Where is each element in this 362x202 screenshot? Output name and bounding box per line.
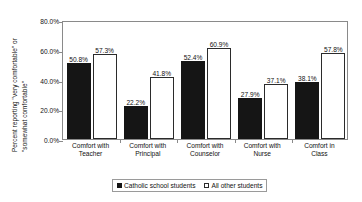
bar-group: 50.8%57.3% [63,22,120,139]
plot-area: 50.8%57.3%22.2%41.8%52.4%60.9%27.9%37.1%… [62,21,348,140]
y-axis-tick-labels: 0.0%20.0%40.0%60.0%80.0% [25,0,59,160]
legend-swatch-icon-filled [117,183,122,188]
bar-group: 27.9%37.1% [235,22,292,139]
bar-catholic-school-students: 27.9% [238,98,262,140]
bar-all-other-students: 57.3% [93,54,117,139]
category-label-line: Comfort with [234,142,291,150]
x-axis-category-label: Comfort withTeacher [62,142,119,159]
category-label-line: Class [291,150,348,158]
bar-group: 22.2%41.8% [120,22,177,139]
category-label-line: Comfort with [119,142,176,150]
legend-label: All other students [211,182,262,189]
bar-value-label: 57.3% [95,47,114,54]
bar-chart: Percent reporting "very comfortable" or … [0,0,362,202]
category-label-line: Principal [119,150,176,158]
x-axis-category-label: Comfort withCounselor [176,142,233,159]
bar-value-label: 60.9% [210,41,229,48]
bar-all-other-students: 37.1% [264,84,288,139]
y-axis-tick-label: 60.0% [25,47,59,54]
category-label-line: Teacher [62,150,119,158]
bar-value-label: 38.1% [298,75,317,82]
bar-value-label: 27.9% [241,91,260,98]
y-axis-tick-label: 40.0% [25,77,59,84]
legend-item-all-other-students: All other students [204,182,262,189]
y-axis-title-line-1: Percent reporting "very comfortable" or [11,38,18,152]
category-label-line: Comfort with [176,142,233,150]
bar-value-label: 37.1% [267,77,286,84]
bar-value-label: 22.2% [126,99,145,106]
bar-catholic-school-students: 52.4% [181,61,205,139]
x-axis-category-labels: Comfort withTeacherComfort withPrincipal… [62,142,348,166]
legend-item-catholic-school-students: Catholic school students [117,182,195,189]
bar-value-label: 41.8% [152,70,171,77]
category-label-line: Comfort in [291,142,348,150]
category-label-line: Nurse [234,150,291,158]
category-label-line: Counselor [176,150,233,158]
legend-label: Catholic school students [124,182,195,189]
x-axis-category-label: Comfort withPrincipal [119,142,176,159]
bar-value-label: 50.8% [69,56,88,63]
bar-catholic-school-students: 22.2% [124,106,148,139]
category-label-line: Comfort with [62,142,119,150]
y-axis-tick-label: 20.0% [25,107,59,114]
bar-all-other-students: 60.9% [207,48,231,139]
x-axis-category-label: Comfort withNurse [234,142,291,159]
legend: Catholic school students All other stude… [112,179,267,192]
bar-catholic-school-students: 50.8% [67,63,91,139]
bar-catholic-school-students: 38.1% [295,82,319,139]
bar-value-label: 57.8% [324,46,343,53]
y-axis-tick-label: 0.0% [25,137,59,144]
legend-swatch-icon-open [204,183,209,188]
bar-all-other-students: 57.8% [321,53,345,139]
bar-group: 38.1%57.8% [292,22,349,139]
x-axis-category-label: Comfort inClass [291,142,348,159]
bar-all-other-students: 41.8% [150,77,174,139]
bar-group: 52.4%60.9% [177,22,234,139]
y-axis-tick-label: 80.0% [25,18,59,25]
bar-value-label: 52.4% [184,54,203,61]
